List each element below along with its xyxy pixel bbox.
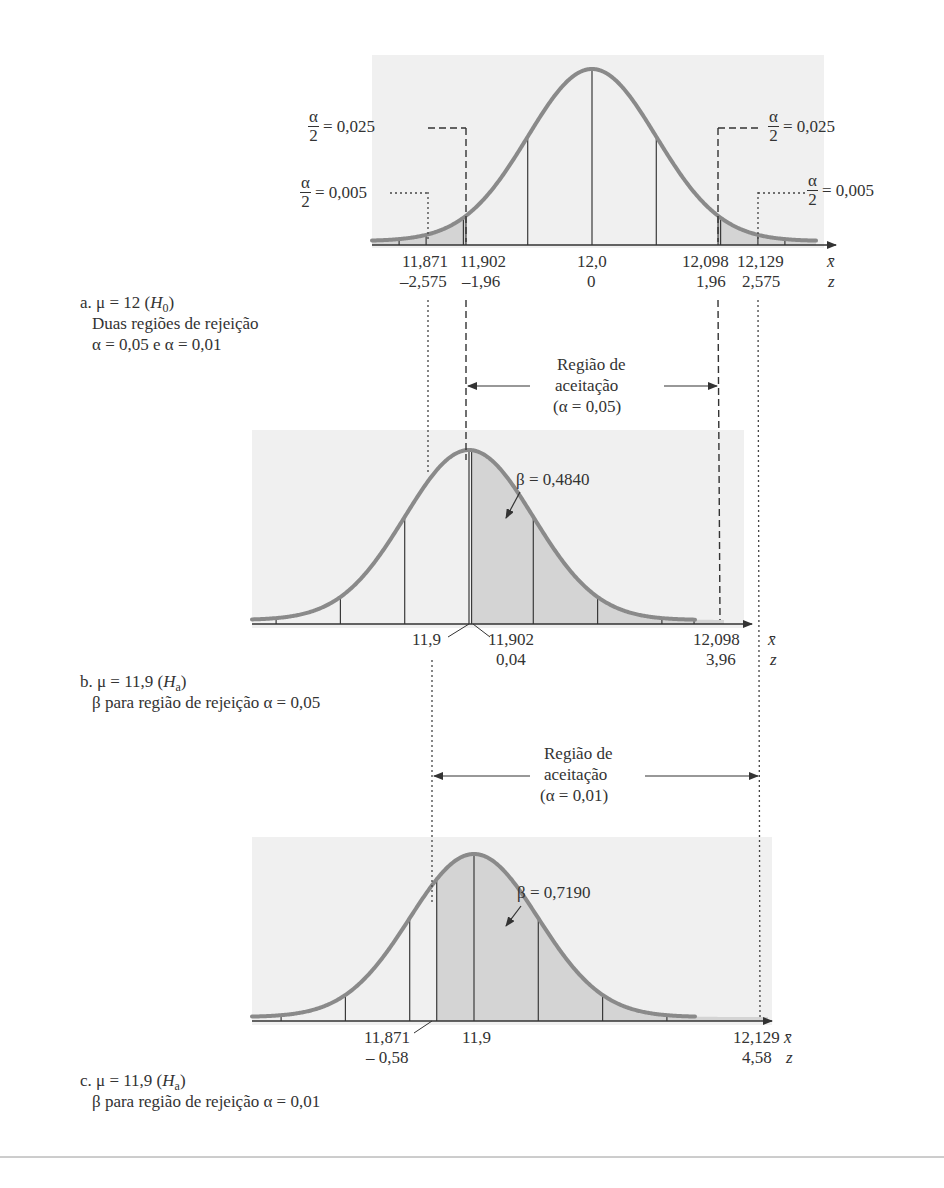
- alpha-half-value-025-right: = 0,025: [783, 117, 835, 137]
- xbar-axis-symbol-a: x̄: [827, 252, 835, 272]
- caption-a-prefix: a. μ = 12 (: [80, 293, 150, 312]
- z-axis-symbol-b: z: [770, 650, 777, 670]
- xbar-axis-symbol-c: x̄: [784, 1028, 792, 1048]
- xbar-tick-11871-c: 11,871: [364, 1028, 410, 1048]
- z-tick-neg2575-a: –2,575: [400, 272, 447, 292]
- caption-b-suffix: ): [181, 672, 187, 691]
- acceptance-region-1-line3: (α = 0,05): [553, 397, 621, 417]
- z-tick-neg196-a: –1,96: [462, 272, 500, 292]
- acceptance-region-1-line1: Região de: [557, 355, 625, 375]
- two-symbol: 2: [308, 127, 319, 145]
- alpha-half-fraction-025-left: α 2: [308, 108, 319, 145]
- caption-c-suffix: ): [180, 1071, 186, 1090]
- alpha-symbol: α: [300, 174, 311, 193]
- caption-b-hypothesis: H: [163, 672, 175, 691]
- z-axis-symbol-c: z: [786, 1048, 793, 1068]
- beta-label-b: β = 0,4840: [516, 470, 590, 490]
- xbar-tick-11902-a: 11,902: [460, 252, 506, 272]
- xbar-tick-12129-a: 12,129: [737, 252, 784, 272]
- acceptance-region-2-line1: Região de: [544, 744, 612, 764]
- acceptance-region-2-line2: aceitação: [544, 765, 607, 785]
- xbar-tick-12098-b: 12,098: [693, 630, 740, 650]
- xbar-tick-12098-a: 12,098: [682, 252, 729, 272]
- xbar-tick-11871-a: 11,871: [402, 252, 448, 272]
- xbar-axis-symbol-b: x̄: [768, 630, 776, 650]
- acceptance-region-1-line2: aceitação: [555, 376, 618, 396]
- xbar-tick-119-c: 11,9: [462, 1028, 491, 1048]
- caption-a-line3: α = 0,05 e α = 0,01: [92, 334, 222, 355]
- z-tick-2575-a: 2,575: [742, 272, 780, 292]
- xbar-tick-120-a: 12,0: [577, 252, 607, 272]
- beta-label-c: β = 0,7190: [517, 883, 591, 903]
- caption-b-prefix: b. μ = 11,9 (: [80, 672, 163, 691]
- two-symbol: 2: [300, 193, 311, 211]
- two-symbol: 2: [768, 127, 779, 145]
- alpha-half-value-025-left: = 0,025: [323, 117, 375, 137]
- caption-a-line2: Duas regiões de rejeição: [92, 313, 259, 334]
- two-symbol: 2: [807, 191, 818, 209]
- caption-a-hypothesis: H: [150, 293, 162, 312]
- alpha-symbol: α: [308, 108, 319, 127]
- alpha-half-value-005-right: = 0,005: [822, 181, 874, 201]
- alpha-symbol: α: [807, 172, 818, 191]
- alpha-half-fraction-005-right: α 2: [807, 172, 818, 209]
- caption-c-prefix: c. μ = 11,9 (: [80, 1071, 162, 1090]
- acceptance-region-2-line3: (α = 0,01): [540, 786, 608, 806]
- alpha-half-value-005-left: = 0,005: [315, 183, 367, 203]
- alpha-symbol: α: [768, 108, 779, 127]
- xbar-tick-12129-c: 12,129: [733, 1028, 780, 1048]
- z-tick-004-b: 0,04: [496, 650, 526, 670]
- caption-c-hypothesis: H: [162, 1071, 174, 1090]
- xbar-tick-119-b: 11,9: [412, 630, 441, 650]
- z-axis-symbol-a: z: [828, 272, 835, 292]
- xbar-tick-11902-b: 11,902: [488, 630, 534, 650]
- z-tick-neg058-c: – 0,58: [366, 1048, 409, 1068]
- hypothesis-test-figure: [0, 0, 944, 1188]
- alpha-half-fraction-005-left: α 2: [300, 174, 311, 211]
- z-tick-0-a: 0: [587, 272, 596, 292]
- caption-b-line2: β para região de rejeição α = 0,05: [92, 692, 320, 713]
- z-tick-196-a: 1,96: [696, 272, 726, 292]
- caption-a-suffix: ): [168, 293, 174, 312]
- caption-c-line2: β para região de rejeição α = 0,01: [92, 1091, 320, 1112]
- alpha-half-fraction-025-right: α 2: [768, 108, 779, 145]
- z-tick-458-c: 4,58: [742, 1048, 772, 1068]
- z-tick-396-b: 3,96: [706, 650, 736, 670]
- panel-a-background: [372, 55, 824, 248]
